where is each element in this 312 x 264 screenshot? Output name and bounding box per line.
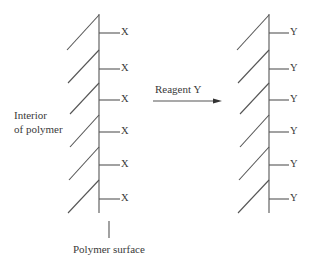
substituent-y-4: Y [290, 125, 298, 136]
left-hatch-marks [67, 15, 99, 213]
reagent-label: Reagent Y [155, 83, 201, 96]
substituent-y-5: Y [290, 158, 298, 169]
substituent-x-2: X [121, 62, 129, 73]
interior-label-line1: Interior [14, 109, 47, 122]
left-branches [99, 33, 120, 199]
substituent-y-3: Y [290, 93, 298, 104]
substituent-x-3: X [121, 93, 129, 104]
substituent-x-6: X [121, 192, 129, 203]
arrowhead-icon [213, 99, 222, 104]
substituent-x-4: X [121, 125, 129, 136]
right-branches [269, 33, 289, 199]
polymer-surface-label: Polymer surface [73, 243, 145, 256]
right-hatch-marks [237, 15, 269, 213]
substituent-x-5: X [121, 158, 129, 169]
interior-label-line2: of polymer [14, 123, 63, 136]
substituent-y-2: Y [290, 62, 298, 73]
substituent-y-6: Y [290, 192, 298, 203]
substituent-y-1: Y [290, 26, 298, 37]
substituent-x-1: X [121, 26, 129, 37]
